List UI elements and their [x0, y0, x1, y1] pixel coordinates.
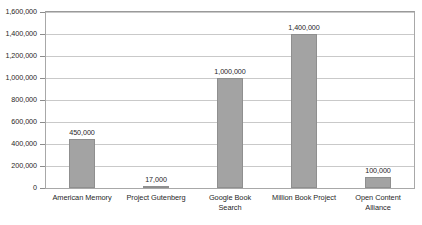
- bar-value-label: 450,000: [69, 129, 95, 137]
- y-axis-tick-label: 600,000: [0, 118, 37, 126]
- x-axis-category-label: Google BookSearch: [193, 193, 267, 212]
- x-axis-label-line: Open Content: [341, 193, 415, 203]
- y-axis-tick-label: 200,000: [0, 162, 37, 170]
- x-axis-label-line: Alliance: [341, 203, 415, 213]
- bars-layer: 450,00017,0001,000,0001,400,000100,000: [45, 11, 415, 189]
- bar-group: 1,000,000: [193, 11, 267, 188]
- bar-group: 1,400,000: [267, 11, 341, 188]
- bar-value-label: 100,000: [365, 167, 391, 175]
- x-axis-label-line: Million Book Project: [267, 193, 341, 203]
- x-axis-label-line: American Memory: [45, 193, 119, 203]
- x-axis-label-line: Project Gutenberg: [119, 193, 193, 203]
- bar[interactable]: [143, 186, 169, 188]
- y-axis-tick-label: 1,600,000: [0, 8, 37, 16]
- x-axis-category-label: Project Gutenberg: [119, 193, 193, 203]
- y-axis-tick-label: 1,200,000: [0, 52, 37, 60]
- bar-value-label: 1,400,000: [288, 24, 320, 32]
- bar[interactable]: [291, 34, 317, 188]
- x-axis-category-label: Open ContentAlliance: [341, 193, 415, 212]
- bar-group: 17,000: [119, 11, 193, 188]
- x-axis-label-line: Search: [193, 203, 267, 213]
- y-axis-tick-label: 0: [0, 184, 37, 192]
- y-axis-tick-label: 400,000: [0, 140, 37, 148]
- y-axis-tick-label: 800,000: [0, 96, 37, 104]
- bar[interactable]: [69, 139, 95, 189]
- x-axis: American MemoryProject GutenbergGoogle B…: [45, 193, 415, 225]
- x-axis-category-label: Million Book Project: [267, 193, 341, 203]
- bar[interactable]: [365, 177, 391, 188]
- bar-value-label: 1,000,000: [214, 68, 246, 76]
- y-axis-tick-label: 1,400,000: [0, 30, 37, 38]
- bar-group: 100,000: [341, 11, 415, 188]
- bar-group: 450,000: [45, 11, 119, 188]
- bar[interactable]: [217, 78, 243, 188]
- y-axis-tick-label: 1,000,000: [0, 74, 37, 82]
- x-axis-label-line: Google Book: [193, 193, 267, 203]
- bar-chart: 0200,000400,000600,000800,0001,000,0001,…: [0, 0, 422, 225]
- x-axis-category-label: American Memory: [45, 193, 119, 203]
- y-axis: 0200,000400,000600,000800,0001,000,0001,…: [0, 0, 44, 225]
- bar-value-label: 17,000: [145, 176, 167, 184]
